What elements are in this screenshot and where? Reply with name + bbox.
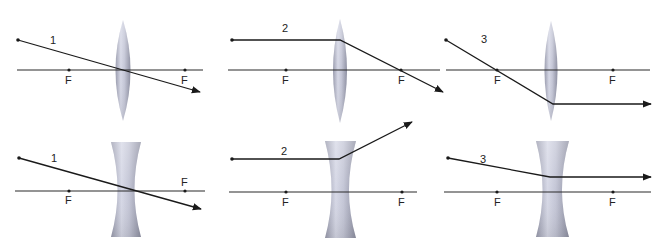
panel-diverging-2 <box>229 122 417 238</box>
ray-label: 3 <box>481 34 487 45</box>
focal-point-right <box>183 189 186 192</box>
focal-label-left: F <box>282 197 289 208</box>
focal-label-right: F <box>181 177 188 188</box>
focal-label-left: F <box>494 197 501 208</box>
panel-converging-2 <box>228 19 443 123</box>
focal-point-left <box>67 68 70 71</box>
focal-label-left: F <box>65 195 72 206</box>
focal-point-right <box>611 68 614 71</box>
focal-label-right: F <box>181 75 188 86</box>
ray-label: 2 <box>282 23 288 34</box>
lens-ray-diagram <box>0 0 669 251</box>
focal-point-left <box>284 190 287 193</box>
focal-label-right: F <box>398 75 405 86</box>
ray-label: 1 <box>51 153 57 164</box>
focal-point-right <box>400 190 403 193</box>
focal-point-right <box>611 190 614 193</box>
focal-label-left: F <box>494 75 501 86</box>
focal-label-right: F <box>609 197 616 208</box>
panel-diverging-3 <box>444 141 651 237</box>
focal-label-left: F <box>65 75 72 86</box>
ray-2 <box>232 122 412 159</box>
panel-diverging-1 <box>15 142 205 237</box>
focal-point-left <box>67 189 70 192</box>
ray-label: 2 <box>281 146 287 157</box>
ray-1 <box>18 40 200 92</box>
focal-label-left: F <box>282 75 289 86</box>
panel-converging-1 <box>16 20 203 121</box>
ray-1 <box>19 158 201 209</box>
focal-label-right: F <box>609 75 616 86</box>
panel-converging-3 <box>444 21 651 121</box>
focal-point-right <box>183 68 186 71</box>
focal-label-right: F <box>398 197 405 208</box>
focal-point-left <box>495 190 498 193</box>
ray-label: 3 <box>480 154 486 165</box>
focal-point-left <box>284 68 287 71</box>
ray-label: 1 <box>50 35 56 46</box>
